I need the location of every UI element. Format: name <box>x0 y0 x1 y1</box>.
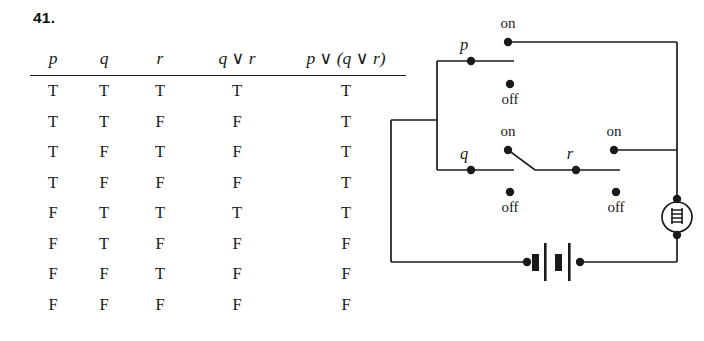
truth-table-body: TTTTTTTFFTTFTFTTFFFTFTTTTFTFFFFFTFFFFFFF <box>30 76 406 321</box>
switch-r-off-contact-dot <box>612 188 620 196</box>
header-text-p-or-q-or-r: p ∨ (q ∨ r) <box>306 44 385 72</box>
cell-r: T <box>132 259 188 290</box>
table-row: TFTFT <box>30 137 406 168</box>
cell-p: T <box>30 137 76 168</box>
switch-r-off-label: off <box>607 199 624 215</box>
circuit-svg: p on off q on off r on off <box>380 0 704 341</box>
table-row: FTFFF <box>30 229 406 260</box>
switch-p-off-contact-dot <box>506 80 514 88</box>
truth-table: p q r q ∨ r p ∨ (q ∨ r) TTTTTTT <box>30 44 406 320</box>
cell-q-or-r: T <box>188 198 286 229</box>
cell-p: F <box>30 229 76 260</box>
switch-p-pivot-dot <box>467 57 475 65</box>
cell-q: F <box>76 168 132 199</box>
cell-q-or-r: F <box>188 290 286 321</box>
switch-r-label: r <box>567 144 574 163</box>
table-row: TTFFT <box>30 107 406 138</box>
cell-q: T <box>76 76 132 107</box>
table-row: FFFFF <box>30 290 406 321</box>
light-bulb-icon <box>662 202 692 232</box>
lamp-bottom-terminal-dot <box>673 231 681 239</box>
cell-r: F <box>132 229 188 260</box>
battery-icon <box>532 243 571 281</box>
switch-r-on-contact-dot <box>610 146 618 154</box>
battery-left-terminal-dot <box>523 258 531 266</box>
cell-p: T <box>30 168 76 199</box>
cell-q: T <box>76 107 132 138</box>
cell-p: F <box>30 259 76 290</box>
circuit-diagram: p on off q on off r on off <box>380 0 704 341</box>
cell-q: T <box>76 198 132 229</box>
switch-q-label: q <box>460 144 468 163</box>
cell-q-or-r: F <box>188 137 286 168</box>
switch-r-pivot-dot <box>572 166 580 174</box>
cell-p: F <box>30 290 76 321</box>
light-bulb-filament-icon <box>671 208 683 224</box>
switch-q-pivot-dot <box>467 166 475 174</box>
column-header-q: q <box>76 44 132 76</box>
table-row: FFTFF <box>30 259 406 290</box>
column-header-p: p <box>30 44 76 76</box>
switch-p-off-label: off <box>501 91 518 107</box>
truth-table-grid: p q r q ∨ r p ∨ (q ∨ r) TTTTTTT <box>30 44 406 320</box>
cell-q: F <box>76 290 132 321</box>
cell-r: T <box>132 76 188 107</box>
switch-p-label: p <box>459 35 468 54</box>
cell-r: T <box>132 137 188 168</box>
cell-r: F <box>132 290 188 321</box>
switch-p-on-label: on <box>501 15 517 31</box>
cell-q: F <box>76 137 132 168</box>
problem-number: 41. <box>33 9 55 27</box>
cell-q: T <box>76 229 132 260</box>
cell-q-or-r: F <box>188 229 286 260</box>
column-header-q-or-r: q ∨ r <box>188 44 286 76</box>
contact-dots <box>467 38 681 266</box>
table-header-row: p q r q ∨ r p ∨ (q ∨ r) <box>30 44 406 76</box>
switch-q-off-label: off <box>501 199 518 215</box>
header-text-r: r <box>157 44 164 72</box>
switch-q-off-contact-dot <box>506 188 514 196</box>
table-row: TFFFT <box>30 168 406 199</box>
cell-p: T <box>30 107 76 138</box>
cell-r: T <box>132 198 188 229</box>
switch-p-on-contact-dot <box>504 38 512 46</box>
lamp-top-terminal-dot <box>673 195 681 203</box>
cell-p: F <box>30 198 76 229</box>
page-root: 41. p q r q ∨ r <box>0 0 704 341</box>
header-text-p: p <box>49 44 58 72</box>
cell-q-or-r: F <box>188 168 286 199</box>
cell-q-or-r: F <box>188 259 286 290</box>
switch-q-on-contact-dot <box>504 146 512 154</box>
battery-right-terminal-dot <box>576 258 584 266</box>
cell-r: F <box>132 107 188 138</box>
switch-q-on-label: on <box>501 123 517 139</box>
switch-r-on-label: on <box>607 123 623 139</box>
cell-p: T <box>30 76 76 107</box>
table-row: FTTTT <box>30 198 406 229</box>
table-row: TTTTT <box>30 76 406 107</box>
column-header-r: r <box>132 44 188 76</box>
cell-q-or-r: T <box>188 76 286 107</box>
header-text-q-or-r: q ∨ r <box>218 44 255 72</box>
cell-r: F <box>132 168 188 199</box>
header-text-q: q <box>100 44 109 72</box>
cell-q: F <box>76 259 132 290</box>
cell-q-or-r: F <box>188 107 286 138</box>
